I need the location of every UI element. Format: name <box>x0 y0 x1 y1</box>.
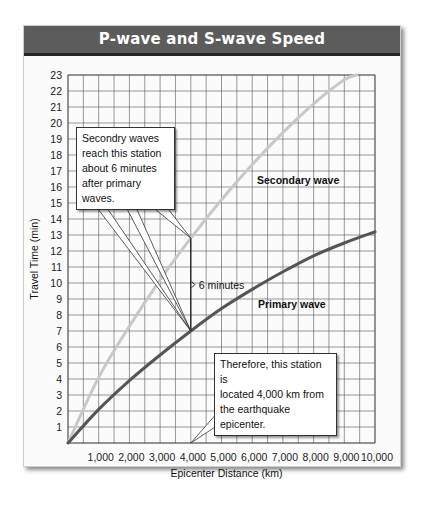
callout-line: reach this station <box>82 146 169 161</box>
callout-line: about 6 minutes <box>82 161 169 176</box>
x-tick-label: 8,000 <box>302 451 328 463</box>
bracket-tick-icon <box>192 282 195 288</box>
x-axis-label: Epicenter Distance (km) <box>170 467 282 479</box>
y-tick-label: 7 <box>56 325 62 337</box>
six-minutes-label: 6 minutes <box>199 279 245 291</box>
x-tick-label: 10,000 <box>361 451 393 463</box>
y-tick-label: 16 <box>50 181 62 193</box>
x-tick-label: 4,000 <box>180 451 206 463</box>
x-tick-label: 1,000 <box>88 451 114 463</box>
y-tick-label: 22 <box>50 85 62 97</box>
y-tick-label: 10 <box>50 277 62 289</box>
y-tick-label: 4 <box>56 373 62 385</box>
callout-line: after primary waves. <box>82 176 169 206</box>
chart-plot: 12345678910111213141516171819202122231,0… <box>0 0 422 512</box>
x-tick-label: 2,000 <box>118 451 144 463</box>
y-tick-label: 2 <box>56 405 62 417</box>
y-tick-label: 23 <box>50 69 62 81</box>
callout-line: the earthquake epicenter. <box>220 402 331 432</box>
y-tick-label: 21 <box>50 101 62 113</box>
y-tick-label: 18 <box>50 149 62 161</box>
x-tick-label: 5,000 <box>210 451 236 463</box>
y-tick-label: 5 <box>56 357 62 369</box>
callout-line: Therefore, this station is <box>220 357 331 387</box>
callout-pointer <box>125 205 191 331</box>
x-tick-label: 3,000 <box>149 451 175 463</box>
x-tick-label: 7,000 <box>272 451 298 463</box>
y-tick-label: 3 <box>56 389 62 401</box>
y-tick-label: 9 <box>56 293 62 305</box>
callout-line: Secondry waves <box>82 131 169 146</box>
y-tick-label: 14 <box>50 213 62 225</box>
x-tick-label: 9,000 <box>333 451 359 463</box>
y-tick-label: 13 <box>50 229 62 241</box>
callout-secondary-delay: Secondry waves reach this station about … <box>76 127 175 210</box>
primary-wave-label: Primary wave <box>258 298 326 310</box>
secondary-wave-label: Secondary wave <box>257 174 339 186</box>
callout-line: located 4,000 km from <box>220 387 331 402</box>
x-tick-label: 6,000 <box>241 451 267 463</box>
y-tick-label: 8 <box>56 309 62 321</box>
y-tick-label: 12 <box>50 245 62 257</box>
y-tick-label: 17 <box>50 165 62 177</box>
callout-station-distance: Therefore, this station is located 4,000… <box>214 353 337 436</box>
y-axis-label: Travel Time (min) <box>28 218 40 299</box>
y-tick-label: 1 <box>56 421 62 433</box>
y-tick-label: 6 <box>56 341 62 353</box>
y-tick-label: 20 <box>50 117 62 129</box>
y-tick-label: 11 <box>51 261 62 273</box>
y-tick-label: 19 <box>50 133 62 145</box>
y-tick-label: 15 <box>50 197 62 209</box>
